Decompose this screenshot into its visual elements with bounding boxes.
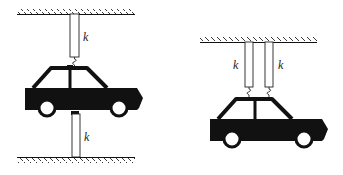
right-diagram: k k bbox=[200, 37, 328, 147]
top-spring bbox=[70, 14, 79, 67]
bottom-spring bbox=[71, 111, 80, 157]
left-diagram: k k bbox=[17, 9, 143, 163]
spring-label: k bbox=[233, 58, 239, 72]
spring-label: k bbox=[84, 130, 90, 144]
spring-label: k bbox=[278, 58, 284, 72]
right-spring bbox=[265, 42, 273, 98]
floor bbox=[17, 158, 135, 164]
spring-label: k bbox=[83, 30, 89, 44]
left-spring bbox=[245, 42, 253, 98]
car bbox=[25, 65, 143, 116]
ceiling bbox=[200, 37, 317, 43]
car bbox=[210, 97, 328, 147]
